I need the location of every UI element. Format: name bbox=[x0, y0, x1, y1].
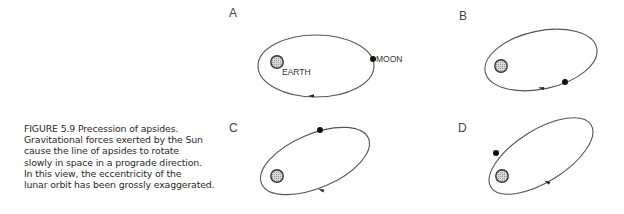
earth-icon bbox=[271, 170, 283, 182]
orbit-ellipse bbox=[251, 113, 379, 208]
orbit-diagram: AEARTHMOONBCD bbox=[0, 0, 624, 214]
panel-c: C bbox=[229, 113, 379, 208]
earth-icon bbox=[495, 60, 507, 72]
panel-d: D bbox=[458, 103, 605, 210]
panel-label: A bbox=[229, 6, 237, 20]
moon-icon bbox=[493, 150, 499, 156]
moon-icon bbox=[562, 79, 568, 85]
panels-group: AEARTHMOONBCD bbox=[229, 6, 605, 209]
moon-label: MOON bbox=[376, 54, 402, 64]
panel-label: D bbox=[458, 121, 467, 135]
panel-label: B bbox=[459, 9, 467, 23]
panel-label: C bbox=[229, 121, 238, 135]
earth-icon bbox=[496, 170, 508, 182]
moon-icon bbox=[317, 127, 323, 133]
panel-a: AEARTHMOON bbox=[229, 6, 402, 98]
orbit-ellipse bbox=[477, 103, 605, 210]
panel-b: B bbox=[459, 9, 603, 100]
earth-label: EARTH bbox=[282, 67, 311, 77]
